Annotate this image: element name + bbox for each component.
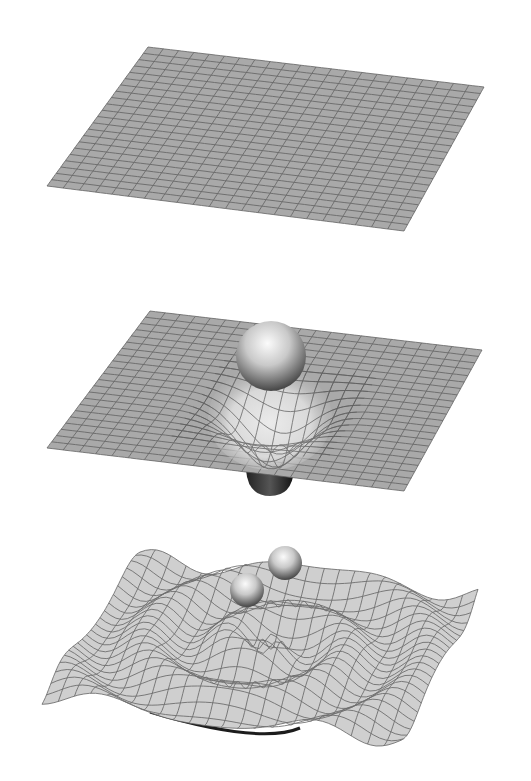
flat-spacetime-panel	[47, 47, 484, 231]
spacetime-figure	[0, 0, 531, 781]
spacetime-diagram	[0, 0, 531, 781]
mass-sphere	[230, 573, 264, 607]
mass-sphere	[268, 546, 302, 580]
gravitational-waves-panel	[42, 546, 478, 746]
curved-spacetime-panel	[47, 311, 482, 496]
mass-sphere	[236, 321, 306, 391]
